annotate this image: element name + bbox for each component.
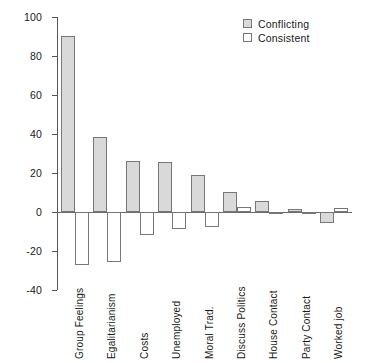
y-axis-tick-label: -40	[8, 285, 42, 295]
chart-legend: Conflicting Consistent	[243, 17, 310, 45]
x-axis-label: Moral Trad.	[204, 306, 215, 359]
bar-consistent-egalitarianism	[107, 212, 121, 262]
bar-consistent-costs	[140, 212, 154, 235]
bar-consistent-house-contact	[269, 212, 283, 214]
bar-consistent-group-feelings	[75, 212, 89, 265]
y-axis-tick-label: 100	[8, 12, 42, 22]
legend-swatch-consistent-icon	[243, 33, 252, 42]
bar-conflicting-costs	[126, 161, 140, 212]
y-axis-tick-label: -20	[8, 246, 42, 256]
x-axis-label: Costs	[139, 332, 150, 359]
bar-conflicting-group-feelings	[61, 36, 75, 212]
bar-consistent-party-contact	[302, 212, 316, 214]
y-axis-tick-label: 40	[8, 129, 42, 139]
y-axis-tick-label: 80	[8, 51, 42, 61]
y-axis-tick	[52, 290, 57, 291]
legend-item-consistent: Consistent	[243, 31, 310, 44]
x-axis-label: Unemployed	[171, 301, 182, 359]
y-axis-tick-label: 0	[8, 207, 42, 217]
bar-conflicting-house-contact	[255, 201, 269, 212]
bar-consistent-worked-job	[334, 208, 348, 212]
bar-consistent-moral-trad	[205, 212, 219, 227]
bar-conflicting-moral-trad	[191, 175, 205, 212]
bar-chart: Percent Change 100806040200-20-40 Group …	[0, 0, 373, 363]
bar-conflicting-egalitarianism	[93, 137, 107, 212]
plot-area	[57, 17, 362, 290]
legend-label-consistent: Consistent	[258, 32, 310, 44]
x-axis-label: House Contact	[268, 290, 279, 359]
x-axis-label: Egalitarianism	[106, 293, 117, 359]
bar-conflicting-worked-job	[320, 212, 334, 223]
x-axis-label: Group Feelings	[74, 288, 85, 359]
legend-item-conflicting: Conflicting	[243, 17, 310, 30]
x-axis-label: Party Contact	[301, 296, 312, 359]
y-axis-tick-label: 60	[8, 90, 42, 100]
x-axis-label: Discuss Politics	[236, 286, 247, 359]
legend-label-conflicting: Conflicting	[258, 18, 309, 30]
x-axis-label: Worked job	[333, 307, 344, 359]
bar-conflicting-unemployed	[158, 162, 172, 212]
bar-consistent-discuss-politics	[237, 207, 251, 212]
bar-conflicting-party-contact	[288, 209, 302, 212]
y-axis-tick-label: 20	[8, 168, 42, 178]
bar-consistent-unemployed	[172, 212, 186, 229]
legend-swatch-conflicting-icon	[243, 19, 252, 28]
bar-conflicting-discuss-politics	[223, 192, 237, 212]
